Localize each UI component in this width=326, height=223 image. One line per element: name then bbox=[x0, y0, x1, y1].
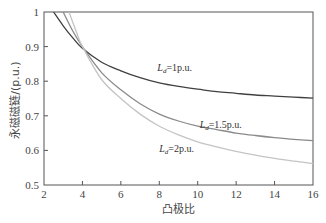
plot-frame bbox=[44, 12, 313, 185]
x-tick-label: 4 bbox=[80, 188, 86, 200]
y-tick-label: 0.9 bbox=[25, 41, 39, 53]
x-axis-label: 凸极比 bbox=[162, 202, 195, 216]
axis-ticks: 2468101214160.50.60.70.80.91 bbox=[25, 6, 319, 200]
curve-series-0 bbox=[54, 12, 313, 98]
y-tick-label: 0.6 bbox=[25, 144, 39, 156]
curve-series-1 bbox=[63, 12, 313, 141]
x-tick-label: 12 bbox=[231, 188, 242, 200]
x-tick-label: 14 bbox=[269, 188, 281, 200]
x-tick-label: 8 bbox=[157, 188, 163, 200]
y-axis-label: 永磁磁链/(p.u.) bbox=[8, 61, 22, 138]
curve-label: Ld=1p.u. bbox=[156, 62, 192, 75]
curves bbox=[54, 12, 313, 164]
y-tick-label: 1 bbox=[34, 6, 40, 18]
chart: 2468101214160.50.60.70.80.91 Ld=1p.u.Ld=… bbox=[0, 0, 326, 223]
y-tick-label: 0.5 bbox=[25, 179, 39, 191]
x-tick-label: 6 bbox=[118, 188, 124, 200]
x-tick-label: 2 bbox=[41, 188, 47, 200]
x-tick-label: 10 bbox=[192, 188, 204, 200]
y-tick-label: 0.8 bbox=[25, 75, 39, 87]
x-tick-label: 16 bbox=[308, 188, 320, 200]
y-tick-label: 0.7 bbox=[25, 110, 39, 122]
curve-label: Ld=2p.u. bbox=[158, 143, 194, 156]
